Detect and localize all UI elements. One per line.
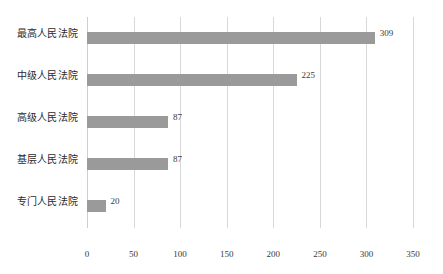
bar-row: 高级人民法院 87 [87, 101, 413, 143]
bar-value-label: 20 [111, 195, 120, 207]
bar-row: 基层人民法院 87 [87, 143, 413, 185]
category-label: 中级人民法院 [17, 68, 78, 84]
xtick-label: 300 [360, 249, 374, 260]
category-label: 基层人民法院 [17, 152, 78, 168]
bar-value-label: 87 [173, 153, 182, 165]
plot-area: 最高人民法院 309 中级人民法院 225 高级人民法院 87 基层人民法院 8… [87, 17, 413, 228]
bar[interactable] [87, 116, 168, 128]
category-label: 高级人民法院 [17, 110, 78, 126]
bar-value-label: 87 [173, 111, 182, 123]
bar[interactable] [87, 74, 297, 86]
bar-value-label: 309 [380, 27, 394, 39]
gridline-350 [413, 17, 414, 228]
bar-value-label: 225 [302, 69, 316, 81]
bar[interactable] [87, 32, 375, 44]
bar-row: 中级人民法院 225 [87, 59, 413, 101]
xtick-label: 50 [129, 249, 138, 260]
bar-series: 最高人民法院 309 中级人民法院 225 高级人民法院 87 基层人民法院 8… [87, 17, 413, 228]
top-edge-artifact [2, 0, 122, 9]
bar-row: 最高人民法院 309 [87, 17, 413, 59]
bar-chart: 最高人民法院 309 中级人民法院 225 高级人民法院 87 基层人民法院 8… [0, 0, 443, 274]
bar-row: 专门人民法院 20 [87, 185, 413, 227]
xtick-label: 250 [313, 249, 327, 260]
bar[interactable] [87, 200, 106, 212]
xtick-label: 150 [220, 249, 234, 260]
xtick-label: 350 [406, 249, 420, 260]
xtick-label: 100 [173, 249, 187, 260]
category-label: 专门人民法院 [17, 194, 78, 210]
category-label: 最高人民法院 [17, 26, 78, 42]
bar[interactable] [87, 158, 168, 170]
xtick-label: 200 [267, 249, 281, 260]
xtick-label: 0 [85, 249, 90, 260]
